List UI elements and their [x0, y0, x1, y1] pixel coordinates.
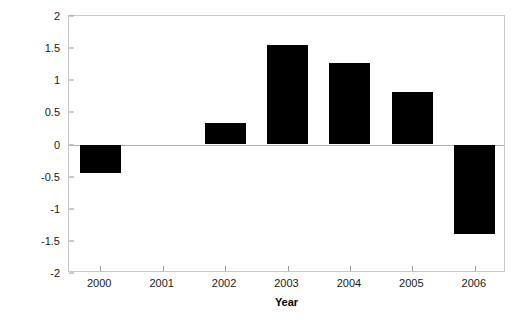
x-axis-tick-mark: [100, 266, 101, 271]
y-axis-tick-label: -2: [50, 267, 69, 279]
y-axis-tick-mark: [69, 208, 74, 209]
plot-area: 21.510.50-0.5-1-1.5-2: [68, 15, 505, 272]
bar-2000: [80, 145, 121, 174]
x-axis-tick-label: 2004: [318, 277, 380, 289]
bar-2003: [267, 45, 308, 145]
bar-2002: [205, 123, 246, 145]
x-axis-tick-mark: [412, 266, 413, 271]
x-axis-tick-mark: [288, 266, 289, 271]
y-axis-tick-mark: [69, 273, 74, 274]
x-axis-tick-label: 2005: [380, 277, 442, 289]
x-axis-tick-mark: [225, 266, 226, 271]
zero-baseline: [69, 145, 504, 146]
y-axis-tick-label: -1: [50, 203, 69, 215]
y-axis-tick-label: 2: [54, 10, 69, 22]
x-axis-tick-mark: [475, 266, 476, 271]
x-axis-tick-label: 2003: [256, 277, 318, 289]
bar-2006: [454, 145, 495, 235]
x-axis-title: Year: [68, 296, 505, 308]
x-axis-tick-label: 2002: [193, 277, 255, 289]
y-axis-tick-label: 0.5: [45, 106, 69, 118]
x-axis-tick-label: 2006: [443, 277, 505, 289]
y-axis-tick-mark: [69, 240, 74, 241]
x-axis-tick-mark: [350, 266, 351, 271]
y-axis-tick-mark: [69, 48, 74, 49]
bar-2005: [392, 92, 433, 144]
y-axis-tick-label: 0: [54, 139, 69, 151]
x-axis-tick-label: 2001: [131, 277, 193, 289]
x-axis-tick-label: 2000: [68, 277, 130, 289]
y-axis-tick-label: 1: [54, 74, 69, 86]
y-axis-tick-label: -1.5: [41, 235, 69, 247]
y-axis-tick-mark: [69, 176, 74, 177]
bar-chart: Index of May SST 21.510.50-0.5-1-1.5-2 Y…: [0, 0, 517, 320]
y-axis-tick-label: 1.5: [45, 42, 69, 54]
y-axis-tick-mark: [69, 112, 74, 113]
bar-2004: [329, 63, 370, 145]
y-axis-tick-mark: [69, 80, 74, 81]
y-axis-tick-label: -0.5: [41, 171, 69, 183]
x-axis-tick-mark: [163, 266, 164, 271]
y-axis-tick-mark: [69, 16, 74, 17]
